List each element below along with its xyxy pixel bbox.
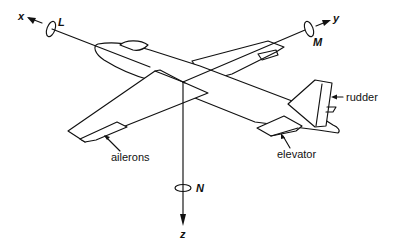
rudder-label: rudder bbox=[346, 91, 378, 103]
z-axis: N z bbox=[175, 82, 205, 240]
rudder-pointer-icon bbox=[331, 95, 337, 100]
ailerons-label: ailerons bbox=[111, 151, 150, 163]
pitch-moment-label: M bbox=[313, 36, 323, 48]
z-arrow-icon bbox=[180, 214, 186, 226]
yaw-moment-label: N bbox=[196, 182, 205, 194]
y-arrow-icon bbox=[322, 20, 331, 26]
y-axis-label: y bbox=[332, 12, 340, 24]
roll-moment-label: L bbox=[58, 16, 65, 28]
x-axis-label: x bbox=[17, 10, 25, 22]
x-arrow-icon bbox=[27, 17, 36, 24]
z-axis-label: z bbox=[179, 228, 186, 240]
elevator-callout: elevator bbox=[277, 133, 316, 160]
roll-moment-loop-icon bbox=[45, 20, 58, 38]
aircraft-axes-diagram: x L y M N z ailerons elevator rudder bbox=[0, 0, 394, 248]
elevator-label: elevator bbox=[277, 148, 316, 160]
rudder-callout: rudder bbox=[331, 91, 378, 103]
ailerons-callout: ailerons bbox=[104, 135, 150, 163]
